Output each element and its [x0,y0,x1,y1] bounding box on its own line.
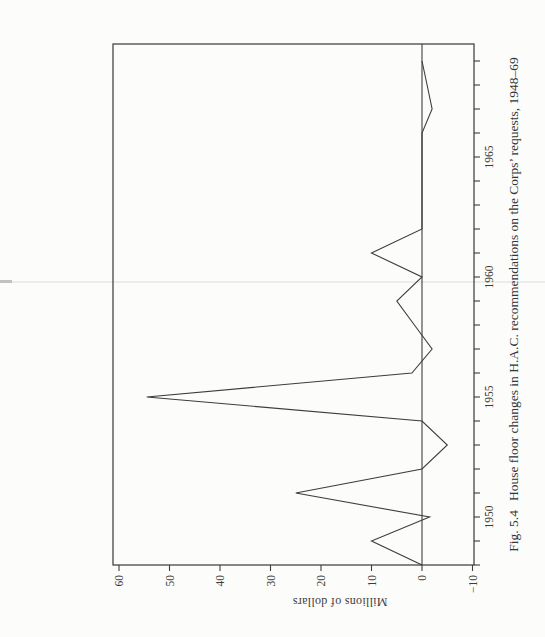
y-axis-title: Millions of dollars [240,593,440,609]
y-axis-tick-label: 50 [164,575,176,587]
figure-number: Fig. 5.4 [506,510,521,552]
x-axis-tick-label: 1955 [483,385,495,408]
data-line [147,61,448,565]
scanned-book-page: 6050403020100−101950195519601965 Million… [0,0,545,637]
y-axis-tick-label: 20 [315,575,327,587]
figure-caption-text: House floor changes in H.A.C. recommenda… [506,57,521,501]
y-axis-tick-label: 60 [113,575,125,587]
y-axis-tick-label: 30 [265,575,277,587]
x-axis-tick-label: 1960 [483,265,495,288]
y-axis-tick-label: 10 [366,575,378,587]
x-axis-tick-label: 1950 [483,505,495,528]
line-chart: 6050403020100−101950195519601965 [0,0,545,637]
rotated-figure-canvas: 6050403020100−101950195519601965 Million… [0,0,545,637]
y-axis-tick-label: −10 [467,575,479,593]
y-axis-tick-label: 0 [416,575,428,581]
y-axis-tick-label: 40 [214,575,226,587]
x-axis-tick-label: 1965 [483,145,495,168]
plot-frame [113,44,474,565]
figure-caption: Fig. 5.4House floor changes in H.A.C. re… [506,32,522,577]
